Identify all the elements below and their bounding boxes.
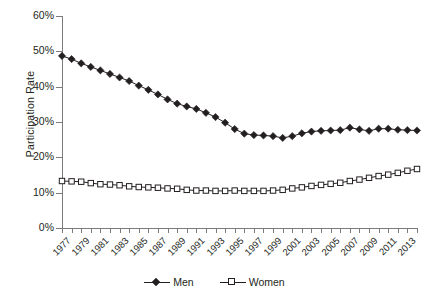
data-point: [183, 103, 190, 110]
women-marker-icon: [220, 277, 246, 287]
series-line-men: [62, 56, 417, 138]
data-point: [135, 82, 142, 89]
data-point: [395, 170, 400, 175]
data-point: [299, 185, 304, 190]
data-point: [184, 187, 189, 192]
data-point: [250, 131, 257, 138]
data-point: [308, 128, 315, 135]
data-point: [357, 177, 362, 182]
data-point: [222, 119, 229, 126]
series-men: [58, 52, 420, 141]
series-line-women: [62, 169, 417, 191]
data-point: [251, 188, 256, 193]
data-point: [386, 172, 391, 177]
data-point: [69, 179, 74, 184]
data-point: [376, 173, 381, 178]
data-point: [58, 52, 65, 59]
data-point: [136, 184, 141, 189]
legend-entry-men: Men: [144, 276, 193, 288]
data-point: [87, 63, 94, 70]
men-marker-icon: [144, 277, 170, 287]
data-point: [269, 133, 276, 140]
data-point: [212, 113, 219, 120]
chart-legend: Men Women: [0, 276, 429, 288]
data-point: [279, 134, 286, 141]
data-point: [394, 126, 401, 133]
data-point: [155, 185, 160, 190]
data-point: [107, 182, 112, 187]
data-point: [385, 125, 392, 132]
data-point: [78, 179, 83, 184]
data-point: [317, 127, 324, 134]
data-point: [231, 125, 238, 132]
data-point: [97, 67, 104, 74]
data-point: [146, 185, 151, 190]
data-point: [356, 126, 363, 133]
data-point: [298, 130, 305, 137]
data-point: [280, 187, 285, 192]
legend-label-women: Women: [249, 276, 285, 288]
data-point: [78, 60, 85, 67]
data-point: [116, 74, 123, 81]
data-point: [366, 175, 371, 180]
data-point: [174, 100, 181, 107]
data-point: [290, 186, 295, 191]
data-point: [241, 130, 248, 137]
data-point: [165, 186, 170, 191]
data-point: [328, 181, 333, 186]
series-plot: [0, 0, 429, 298]
data-point: [365, 127, 372, 134]
data-point: [270, 188, 275, 193]
data-point: [375, 125, 382, 132]
legend-entry-women: Women: [220, 276, 285, 288]
data-point: [318, 182, 323, 187]
data-point: [203, 188, 208, 193]
data-point: [59, 178, 64, 183]
data-point: [213, 188, 218, 193]
data-point: [309, 183, 314, 188]
data-point: [117, 183, 122, 188]
series-women: [59, 166, 419, 193]
data-point: [98, 181, 103, 186]
data-point: [260, 132, 267, 139]
data-point: [174, 186, 179, 191]
data-point: [68, 56, 75, 63]
data-point: [337, 127, 344, 134]
data-point: [242, 188, 247, 193]
data-point: [346, 124, 353, 131]
data-point: [202, 109, 209, 116]
legend-label-men: Men: [173, 276, 193, 288]
data-point: [413, 127, 420, 134]
data-point: [106, 70, 113, 77]
data-point: [222, 188, 227, 193]
data-point: [414, 166, 419, 171]
data-point: [88, 180, 93, 185]
data-point: [289, 133, 296, 140]
data-point: [154, 91, 161, 98]
data-point: [145, 86, 152, 93]
data-point: [194, 188, 199, 193]
participation-rate-line-chart: Participation Rate 0%10%20%30%40%50%60% …: [0, 0, 429, 298]
data-point: [261, 188, 266, 193]
data-point: [193, 105, 200, 112]
data-point: [164, 96, 171, 103]
data-point: [327, 127, 334, 134]
data-point: [405, 168, 410, 173]
data-point: [126, 77, 133, 84]
data-point: [126, 184, 131, 189]
data-point: [404, 127, 411, 134]
data-point: [347, 178, 352, 183]
data-point: [232, 188, 237, 193]
data-point: [338, 180, 343, 185]
